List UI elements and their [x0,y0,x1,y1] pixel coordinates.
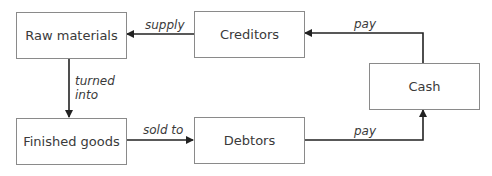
node-cash: Cash [369,63,480,110]
node-debtors: Debtors [194,117,305,164]
node-label: Creditors [220,27,279,42]
node-raw-materials: Raw materials [16,12,127,59]
node-finished-goods: Finished goods [16,118,127,165]
arrow-pay-top [305,33,423,63]
node-label: Raw materials [25,28,118,43]
node-label: Cash [408,79,440,94]
node-label: Debtors [224,133,275,148]
edge-label-pay-top: pay [354,17,376,31]
node-label: Finished goods [23,134,120,149]
edge-label-into: into [75,88,98,102]
edge-label-turned: turned [75,74,115,88]
edge-label-sold-to: sold to [143,123,183,137]
edge-label-supply: supply [145,18,185,32]
node-creditors: Creditors [194,11,305,58]
edge-label-pay-bottom: pay [354,124,376,138]
